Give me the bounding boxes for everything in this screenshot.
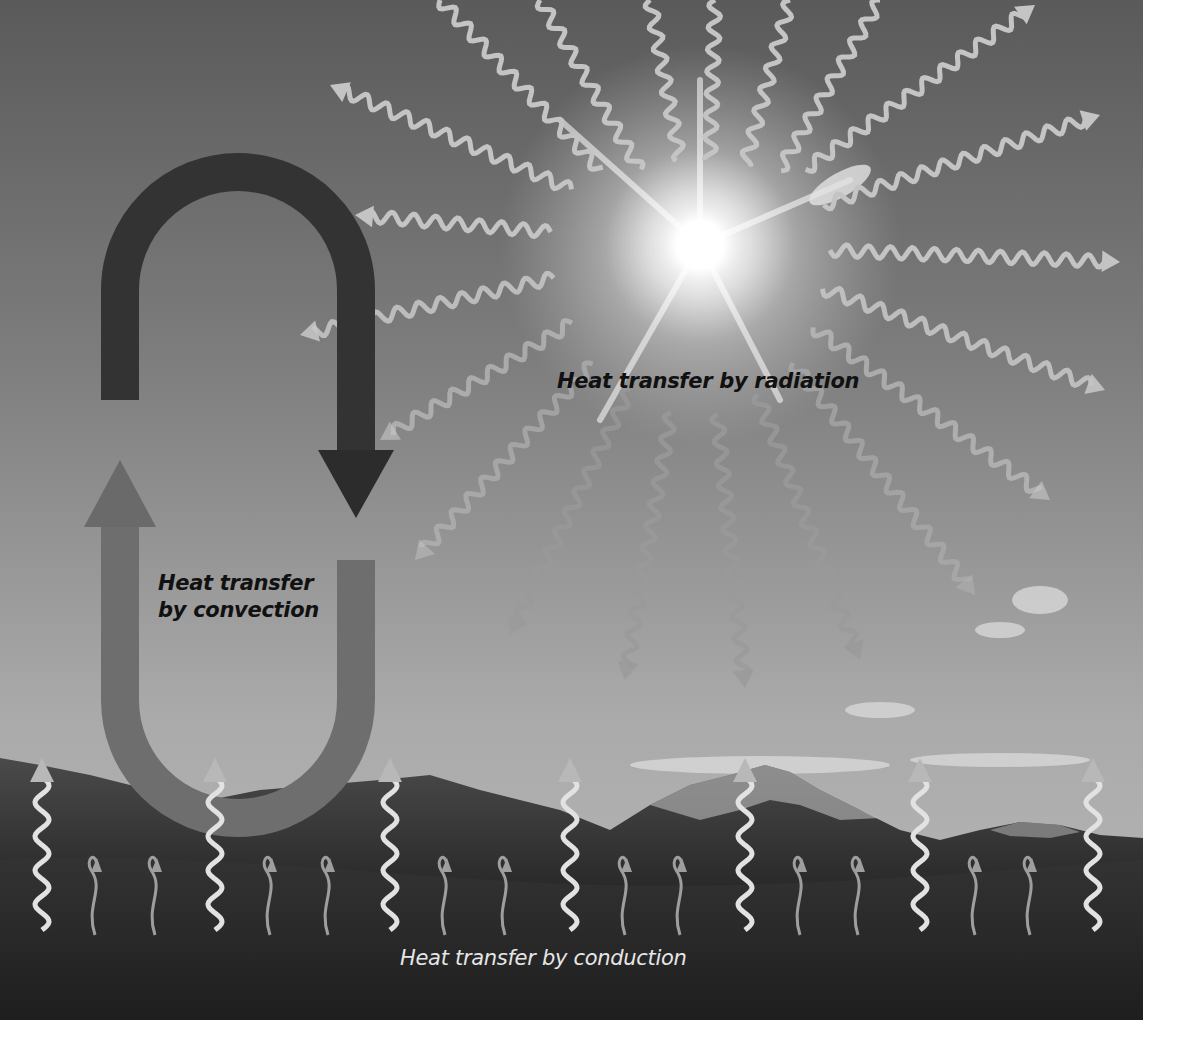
figure-artwork [0, 0, 1143, 1020]
heat-transfer-figure: Heat transfer by radiation Heat transfer… [0, 0, 1143, 1020]
convection-label-line2: by convection [158, 597, 319, 624]
radiation-label: Heat transfer by radiation [557, 368, 859, 395]
convection-label-line1: Heat transfer [158, 570, 319, 597]
convection-label: Heat transfer by convection [158, 570, 319, 624]
conduction-label: Heat transfer by conduction [400, 945, 687, 972]
